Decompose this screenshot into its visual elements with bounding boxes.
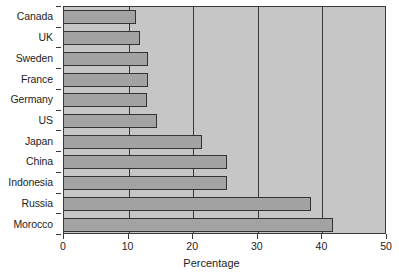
x-axis-tick-20 xyxy=(192,234,193,239)
bar-uk xyxy=(64,31,140,45)
y-axis-label-indonesia: Indonesia xyxy=(8,176,53,188)
bar-row xyxy=(64,10,136,24)
x-axis-tick-labels: 01020304050 xyxy=(0,240,399,256)
bars-layer xyxy=(64,7,385,233)
bar-chart: CanadaUKSwedenFranceGermanyUSJapanChinaI… xyxy=(0,0,399,279)
bar-row xyxy=(64,52,148,66)
bar-germany xyxy=(64,93,147,107)
bar-row xyxy=(64,197,311,211)
x-axis-title: Percentage xyxy=(0,257,399,269)
y-axis-tick xyxy=(56,89,61,90)
bar-row xyxy=(64,73,148,87)
bar-row xyxy=(64,176,227,190)
x-axis-tick-10 xyxy=(128,234,129,239)
y-axis-label-uk: UK xyxy=(39,31,53,43)
y-axis-label-japan: Japan xyxy=(25,135,53,147)
x-axis-tick-50 xyxy=(386,234,387,239)
x-axis-tick-0 xyxy=(63,234,64,239)
x-axis-tick-label-30: 30 xyxy=(251,240,263,252)
y-axis-label-germany: Germany xyxy=(11,93,53,105)
bar-russia xyxy=(64,197,311,211)
y-axis-tick xyxy=(56,47,61,48)
y-axis-label-morocco: Morocco xyxy=(13,218,53,230)
y-axis-tick xyxy=(56,27,61,28)
y-axis-tick xyxy=(56,172,61,173)
y-axis-label-russia: Russia xyxy=(22,197,54,209)
bar-japan xyxy=(64,135,202,149)
x-axis-title-text: Percentage xyxy=(183,257,239,269)
y-axis-tick xyxy=(56,151,61,152)
bar-row xyxy=(64,31,140,45)
y-axis-label-us: US xyxy=(39,114,53,126)
bar-us xyxy=(64,114,157,128)
y-axis-tick xyxy=(56,68,61,69)
y-axis-tick xyxy=(56,234,61,235)
x-axis-tick-40 xyxy=(321,234,322,239)
bar-row xyxy=(64,135,202,149)
y-axis-label-france: France xyxy=(21,73,53,85)
x-axis-tick-label-40: 40 xyxy=(316,240,328,252)
y-axis-label-sweden: Sweden xyxy=(16,52,53,64)
x-axis-tick-label-0: 0 xyxy=(60,240,66,252)
y-axis-tick xyxy=(56,110,61,111)
bar-france xyxy=(64,73,148,87)
bar-morocco xyxy=(64,218,333,232)
x-axis-tick-label-20: 20 xyxy=(186,240,198,252)
bar-canada xyxy=(64,10,136,24)
bar-row xyxy=(64,218,333,232)
bar-row xyxy=(64,155,227,169)
y-axis-tick xyxy=(56,193,61,194)
y-axis-tick xyxy=(56,6,61,7)
x-axis-tick-label-50: 50 xyxy=(380,240,392,252)
y-axis-tick xyxy=(56,130,61,131)
plot-area xyxy=(63,6,386,234)
y-axis-label-china: China xyxy=(26,155,53,167)
bar-sweden xyxy=(64,52,148,66)
x-axis-tick-label-10: 10 xyxy=(122,240,134,252)
bar-china xyxy=(64,155,227,169)
bar-row xyxy=(64,114,157,128)
y-axis-tick xyxy=(56,213,61,214)
x-axis-tick-30 xyxy=(257,234,258,239)
y-axis-label-canada: Canada xyxy=(17,10,53,22)
y-axis-labels: CanadaUKSwedenFranceGermanyUSJapanChinaI… xyxy=(0,6,61,234)
bar-row xyxy=(64,93,147,107)
bar-indonesia xyxy=(64,176,227,190)
